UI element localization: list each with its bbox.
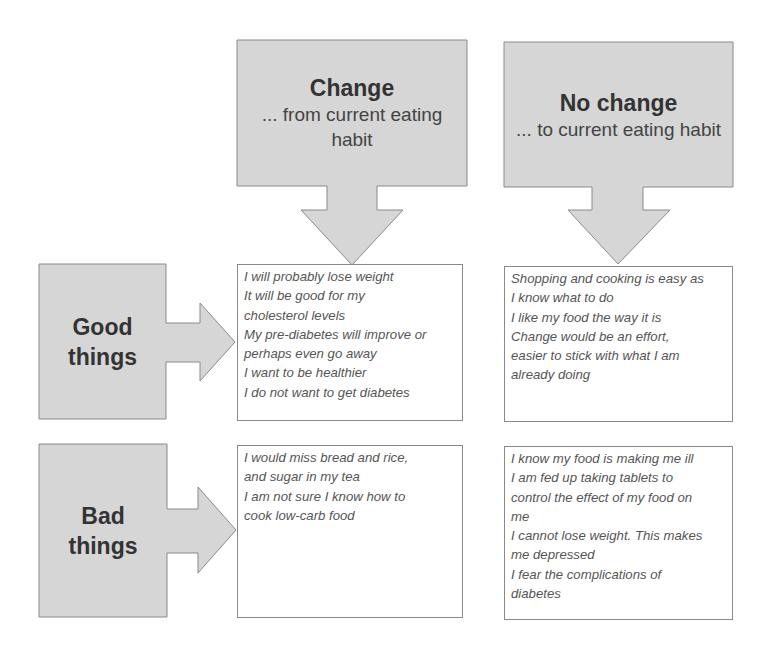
cell-line: Shopping and cooking is easy as [511,269,726,288]
cell-line: I am fed up taking tablets to [511,468,726,487]
nochange-title: No change [560,89,678,117]
good-title-line1: Good [72,312,132,342]
cell-line: control the effect of my food on [511,488,726,507]
cell-line: I am not sure I know how to [244,487,456,506]
cell-line: cook low-carb food [244,506,456,525]
cell-line: I like my food the way it is [511,308,726,327]
cell-line: Change would be an effort, [511,327,726,346]
change-title: Change [310,74,394,102]
cell-line: I do not want to get diabetes [244,383,456,402]
cell-line: diabetes [511,584,726,603]
cell-line: I cannot lose weight. This makes [511,526,726,545]
cell-line: I want to be healthier [244,363,456,382]
change-column-header: Change ... from current eating habit [237,42,467,184]
cell-line: me depressed [511,545,726,564]
cell-change-bad: I would miss bread and rice, and sugar i… [237,445,463,618]
cell-line: I know what to do [511,288,726,307]
bad-title-line1: Bad [81,501,124,531]
change-subtitle: ... from current eating habit [237,102,467,152]
cell-nochange-bad: I know my food is making me ill I am fed… [504,446,733,620]
cell-line: I fear the complications of [511,565,726,584]
nochange-column-header: No change ... to current eating habit [504,44,733,186]
cell-line: perhaps even go away [244,344,456,363]
cell-change-good: I will probably lose weight It will be g… [237,264,463,421]
cell-line: I know my food is making me ill [511,449,726,468]
cell-line: me [511,507,726,526]
bad-things-row-header: Bad things [39,444,167,617]
nochange-subtitle: ... to current eating habit [508,117,729,142]
cell-line: It will be good for my [244,286,456,305]
cell-line: I will probably lose weight [244,267,456,286]
cell-line: cholesterol levels [244,306,456,325]
bad-title-line2: things [69,531,138,561]
cell-line: My pre-diabetes will improve or [244,325,456,344]
cell-line: I would miss bread and rice, [244,448,456,467]
good-title-line2: things [68,342,137,372]
cell-line: easier to stick with what I am [511,346,726,365]
cell-line: already doing [511,365,726,384]
cell-nochange-good: Shopping and cooking is easy as I know w… [504,266,733,422]
good-things-row-header: Good things [39,264,166,419]
cell-line: and sugar in my tea [244,467,456,486]
